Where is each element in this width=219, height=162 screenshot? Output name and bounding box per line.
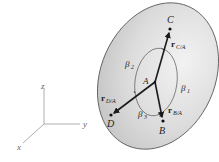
svg-text:B/A: B/A [173,110,182,116]
svg-text:β: β [137,109,143,119]
z-axis-label: z [40,81,45,91]
svg-text:r: r [101,93,105,103]
svg-text:β: β [180,83,186,93]
svg-text:D/A: D/A [105,98,116,104]
point-a [154,81,156,83]
x-axis [23,124,44,143]
svg-text:C/A: C/A [176,44,186,50]
svg-text:r: r [171,39,175,49]
point-c [168,27,171,30]
svg-text:2: 2 [131,64,134,70]
point-d [109,113,112,116]
y-axis-label: y [82,119,87,129]
point-b [161,119,164,122]
label-c: C [167,14,174,25]
svg-text:1: 1 [187,88,190,94]
svg-text:r: r [168,105,172,115]
svg-text:3: 3 [143,114,147,120]
coordinate-axes: z y x [16,81,87,152]
svg-text:β: β [124,59,130,69]
label-a: A [142,76,149,86]
label-b: B [159,125,165,136]
label-d: D [106,118,115,129]
x-axis-label: x [16,142,21,152]
vector-angle-diagram: z y x C A B D r C/A r B/A r D/A [0,0,219,162]
